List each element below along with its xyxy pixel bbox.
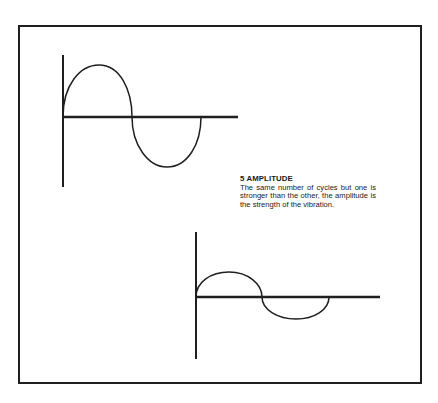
wave-small-amplitude [196,232,380,359]
wave-small-curve [196,272,329,319]
caption: 5 AMPLITUDE The same number of cycles bu… [240,175,376,209]
wave-large-amplitude [63,55,238,187]
caption-body: The same number of cycles but one is str… [240,184,376,210]
